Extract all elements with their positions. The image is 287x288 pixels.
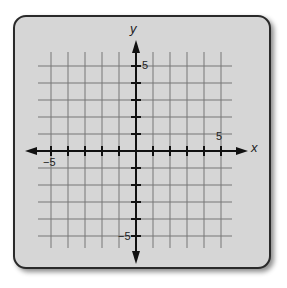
y-tick-label-neg5: −5 — [118, 231, 131, 242]
x-tick-label-5: 5 — [216, 131, 222, 142]
x-axis-label: x — [251, 141, 258, 154]
x-tick-label-neg5: −5 — [43, 157, 56, 168]
y-axis-label: y — [130, 22, 137, 35]
coordinate-plane — [0, 0, 287, 288]
axes — [25, 40, 248, 264]
y-tick-label-5: 5 — [142, 60, 148, 71]
